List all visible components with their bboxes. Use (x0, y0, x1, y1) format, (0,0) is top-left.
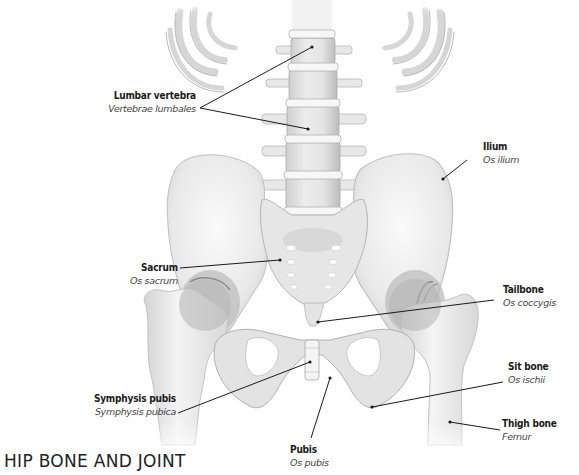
label-la: Os sacrum (96, 274, 178, 287)
label-en: Sacrum (96, 261, 178, 274)
label-la: Os pubis (290, 456, 329, 469)
label-la: Femur (502, 430, 557, 443)
diagram-title: HIP BONE AND JOINT (4, 451, 186, 471)
symphysis (305, 340, 319, 380)
label-symphysis-pubis: Symphysis pubis Symphysis pubica (40, 392, 176, 418)
label-en: Tailbone (503, 283, 556, 296)
label-en: Symphysis pubis (40, 392, 176, 405)
coccyx (304, 303, 324, 326)
label-en: Ilium (483, 140, 519, 153)
label-tailbone: Tailbone Os coccygis (503, 283, 556, 309)
label-sit-bone: Sit bone Os ischii (508, 360, 549, 386)
sacrum (260, 199, 367, 305)
label-thigh-bone: Thigh bone Femur (502, 417, 557, 443)
label-lumbar-vertebra: Lumbar vertebra Vertebrae lumbales (96, 89, 196, 115)
label-en: Pubis (290, 443, 329, 456)
label-en: Lumbar vertebra (96, 89, 196, 102)
label-la: Vertebrae lumbales (96, 102, 196, 115)
label-en: Sit bone (508, 360, 549, 373)
label-en: Thigh bone (502, 417, 557, 430)
label-la: Os coccygis (503, 296, 556, 309)
label-la: Os ilium (483, 153, 519, 166)
label-la: Os ischii (508, 373, 549, 386)
label-sacrum: Sacrum Os sacrum (96, 261, 178, 287)
label-pubis: Pubis Os pubis (290, 443, 329, 469)
label-la: Symphysis pubica (40, 405, 176, 418)
label-ilium: Ilium Os ilium (483, 140, 519, 166)
lumbar-spine (262, 0, 366, 215)
